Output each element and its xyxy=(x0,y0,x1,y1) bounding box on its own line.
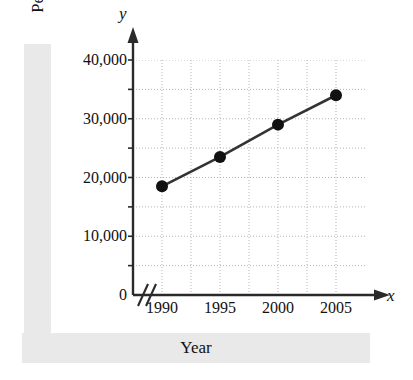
series-line xyxy=(162,95,336,186)
x-tick-label: 2005 xyxy=(320,299,352,317)
plot-area xyxy=(133,60,365,295)
y-tick-label: 40,000 xyxy=(83,51,127,69)
x-tick-label: 2000 xyxy=(262,299,294,317)
y-tick-label: 20,000 xyxy=(83,169,127,187)
data-point-marker xyxy=(156,180,168,192)
chart-figure: Per Capita Income (dollars) Year y x 010… xyxy=(0,0,413,380)
data-point-marker xyxy=(214,151,226,163)
x-tick-label: 1990 xyxy=(146,299,178,317)
x-axis-letter: x xyxy=(387,286,395,306)
data-point-marker xyxy=(272,119,284,131)
data-series xyxy=(133,60,365,295)
data-point-marker xyxy=(330,89,342,101)
y-tick-label: 0 xyxy=(119,286,127,304)
y-axis-title: Per Capita Income (dollars) xyxy=(24,0,51,71)
y-tick-label: 30,000 xyxy=(83,110,127,128)
x-tick-label: 1995 xyxy=(204,299,236,317)
y-axis-title-band xyxy=(24,44,51,346)
y-tick-label: 10,000 xyxy=(83,227,127,245)
y-tick-labels: 010,00020,00030,00040,000 xyxy=(48,0,127,380)
